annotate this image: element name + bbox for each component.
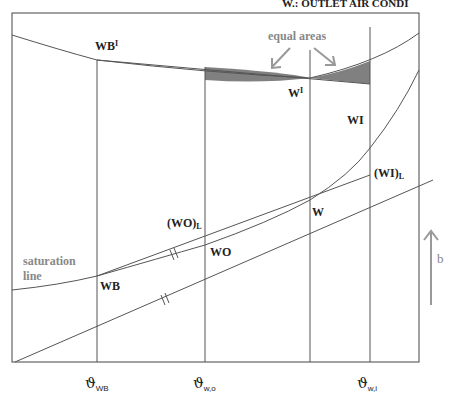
tick-wo: ϑw,o	[193, 374, 216, 393]
b-label: b	[437, 251, 444, 266]
w-prime-label: WI	[288, 86, 303, 100]
equal-areas-label: equal areas	[268, 29, 326, 43]
b-arrow-icon	[424, 231, 438, 305]
shaded-area-right	[310, 61, 370, 84]
frame	[12, 13, 419, 362]
w-label: W	[312, 205, 324, 219]
wo-l-label: (WO)L	[167, 216, 202, 231]
wb-label: WB	[100, 279, 120, 293]
wi-label: WI	[347, 113, 364, 127]
saturation-line-label-2: line	[23, 269, 42, 283]
header-text: W.: OUTLET AIR CONDI	[282, 0, 409, 9]
saturation-line-label-1: saturation	[23, 254, 76, 268]
equal-areas-arrows	[272, 48, 335, 68]
tick-wi: ϑw,i	[357, 374, 377, 393]
wb-prime-label: WBI	[95, 39, 118, 53]
wo-label: WO	[210, 245, 231, 259]
diagram: W.: OUTLET AIR CONDI equal areas WBI WI …	[0, 0, 453, 401]
tick-wb: ϑWB	[85, 374, 109, 393]
wi-l-label: (WI)L	[374, 166, 404, 181]
